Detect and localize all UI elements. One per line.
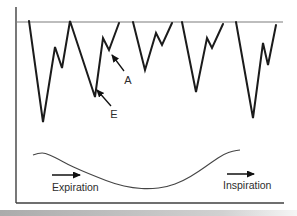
expiration-label: Expiration: [52, 181, 99, 193]
inspiration-label: Inspiration: [223, 179, 272, 191]
a-wave-label: A: [124, 74, 132, 86]
page-shadow-band: [0, 210, 297, 216]
figure: A E Expiration Inspiration: [0, 0, 297, 216]
e-wave-label: E: [110, 108, 117, 120]
figure-canvas: A E Expiration Inspiration: [0, 0, 297, 216]
